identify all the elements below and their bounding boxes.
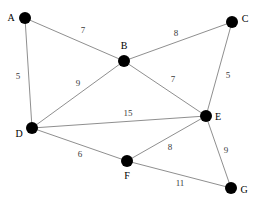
edge-weight-e-f: 8 — [168, 143, 173, 152]
graph-node-b[interactable] — [118, 55, 130, 67]
node-label-b: B — [121, 41, 128, 51]
graph-edge-b-d — [32, 61, 124, 128]
graph-edge-a-d — [25, 18, 32, 128]
graph-node-f[interactable] — [121, 155, 133, 167]
edge-weight-d-f: 6 — [78, 150, 83, 159]
graph-edge-d-e — [32, 116, 206, 128]
graph-edge-b-e — [124, 61, 206, 116]
node-label-e: E — [215, 112, 221, 122]
graph-edge-a-b — [25, 18, 124, 61]
graph-diagram: 7589751568911ABCDEFG — [0, 0, 260, 207]
edge-weight-b-d: 9 — [76, 79, 81, 88]
nodes-layer — [19, 12, 238, 194]
graph-node-g[interactable] — [225, 182, 237, 194]
graph-node-a[interactable] — [19, 12, 31, 24]
node-label-g: G — [240, 185, 247, 195]
edge-weight-c-e: 5 — [226, 71, 231, 80]
edge-weight-a-b: 7 — [81, 26, 86, 35]
node-label-c: C — [242, 14, 249, 24]
edge-weight-b-e: 7 — [171, 75, 176, 84]
graph-node-d[interactable] — [26, 122, 38, 134]
graph-node-e[interactable] — [200, 110, 212, 122]
node-label-f: F — [124, 171, 130, 181]
node-label-d: D — [15, 129, 22, 139]
node-label-a: A — [7, 13, 14, 23]
edge-weight-a-d: 5 — [16, 72, 21, 81]
edge-weight-d-e: 15 — [124, 109, 133, 118]
edge-weight-f-g: 11 — [176, 179, 185, 188]
edge-weight-b-c: 8 — [174, 29, 179, 38]
edge-weight-e-g: 9 — [224, 146, 229, 155]
graph-node-c[interactable] — [226, 16, 238, 28]
graph-edge-e-f — [127, 116, 206, 161]
